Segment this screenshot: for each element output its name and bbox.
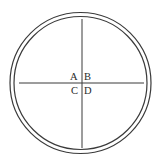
- quadrant-label-c: C: [71, 85, 78, 96]
- quadrant-label-d: D: [84, 85, 92, 96]
- quadrant-circle-diagram: A B C D: [0, 0, 165, 166]
- quadrant-label-a: A: [70, 71, 78, 82]
- quadrant-label-b: B: [84, 71, 91, 82]
